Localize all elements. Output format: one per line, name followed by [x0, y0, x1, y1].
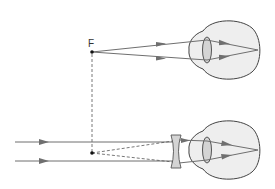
dashed-virtual-rays: [92, 141, 173, 162]
focal-point-label: F: [88, 38, 94, 49]
virtual-image-point: [90, 151, 94, 155]
myopia-diagram: [0, 0, 275, 189]
bottom-eye: [189, 121, 260, 179]
far-point-f: [90, 50, 94, 54]
top-eye: [189, 21, 260, 79]
diagram-canvas: F: [0, 0, 275, 189]
